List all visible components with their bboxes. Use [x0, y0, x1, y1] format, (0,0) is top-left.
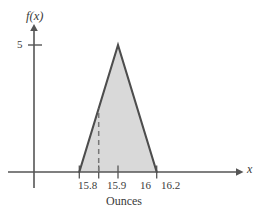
y-tick-label-5: 5 [17, 39, 23, 50]
x-tick-label-15-9: 15.9 [107, 180, 126, 191]
x-tick-label-15-8: 15.8 [78, 180, 97, 191]
x-tick-label-16: 16 [140, 180, 151, 191]
y-axis-arrow-icon [30, 24, 38, 31]
x-axis-arrow-icon [236, 168, 244, 176]
y-axis-label: f(x) [26, 10, 43, 23]
x-axis-title: Ounces [106, 195, 142, 207]
shaded-triangle-region [79, 45, 156, 172]
triangular-distribution-figure: f(x) 5 x 15.8 15.9 16 16.2 Ounces [0, 0, 264, 212]
plot-canvas [0, 0, 264, 212]
x-axis-label: x [247, 163, 252, 175]
y-axis-label-text: f(x) [26, 9, 43, 23]
x-tick-label-16-2: 16.2 [161, 180, 180, 191]
